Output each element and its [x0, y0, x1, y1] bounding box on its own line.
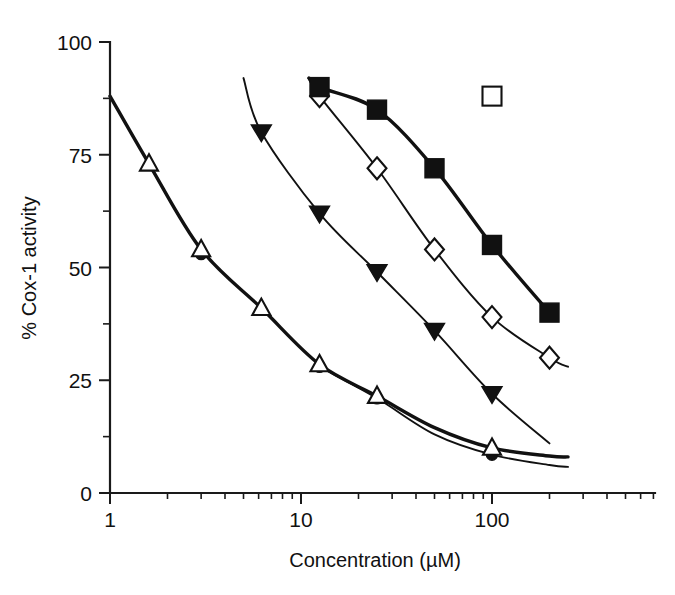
x-axis-tick-labels: 110100 — [104, 508, 509, 531]
series-line — [309, 78, 556, 319]
x-axis-title: Concentration (µM) — [289, 549, 461, 571]
plot-markers-group — [140, 78, 559, 461]
marker-filled-triangle-down — [251, 125, 271, 142]
marker-filled-square — [425, 159, 444, 178]
marker-filled-square — [310, 78, 329, 97]
plot-annotations-group — [483, 87, 502, 106]
chart-figure: 0255075100 110100 Concentration (µM) % C… — [0, 0, 675, 595]
dose-response-chart: 0255075100 110100 Concentration (µM) % C… — [0, 0, 675, 595]
plot-curves-group — [110, 78, 568, 467]
y-tick-label: 25 — [69, 369, 92, 392]
y-tick-label: 75 — [69, 144, 92, 167]
marker-filled-square — [540, 303, 559, 322]
series-markers — [310, 78, 559, 323]
y-axis-tick-labels: 0255075100 — [57, 31, 92, 505]
x-tick-label: 10 — [289, 508, 312, 531]
y-tick-label: 100 — [57, 31, 92, 54]
series-markers — [140, 154, 501, 454]
series-line — [110, 96, 568, 457]
series-line — [320, 367, 569, 467]
x-tick-label: 100 — [474, 508, 509, 531]
y-axis-title: % Cox-1 activity — [18, 196, 40, 339]
marker-open-triangle-up — [140, 154, 158, 170]
marker-open-square — [483, 87, 502, 106]
marker-open-diamond — [540, 347, 559, 369]
series-markers — [196, 248, 498, 460]
marker-filled-square — [483, 235, 502, 254]
y-tick-label: 0 — [80, 482, 92, 505]
y-axis-ticks — [99, 42, 110, 493]
isolated-open-square-marker — [483, 87, 502, 106]
y-tick-label: 50 — [69, 257, 92, 280]
x-tick-label: 1 — [104, 508, 116, 531]
marker-filled-square — [368, 100, 387, 119]
x-axis-ticks — [110, 493, 653, 504]
